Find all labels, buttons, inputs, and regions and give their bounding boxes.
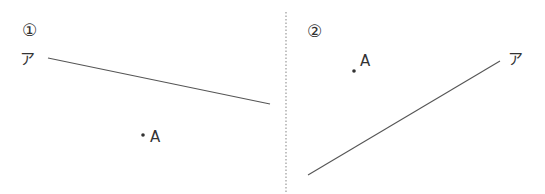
- point-a: [352, 69, 356, 73]
- diagram-canvas: ① ア A ② ア A: [0, 0, 545, 194]
- panel-number: ①: [22, 20, 37, 40]
- diagram-svg: ① ア A ② ア A: [0, 0, 545, 194]
- panel-2: ② ア A: [307, 21, 523, 175]
- line-label: ア: [508, 50, 523, 68]
- point-label: A: [150, 128, 161, 146]
- point-a: [141, 133, 145, 137]
- panel-1: ① ア A: [20, 20, 270, 146]
- point-label: A: [360, 52, 371, 70]
- line-a: [308, 61, 500, 175]
- line-label: ア: [20, 50, 35, 68]
- line-a: [48, 58, 270, 104]
- panel-number: ②: [307, 21, 322, 41]
